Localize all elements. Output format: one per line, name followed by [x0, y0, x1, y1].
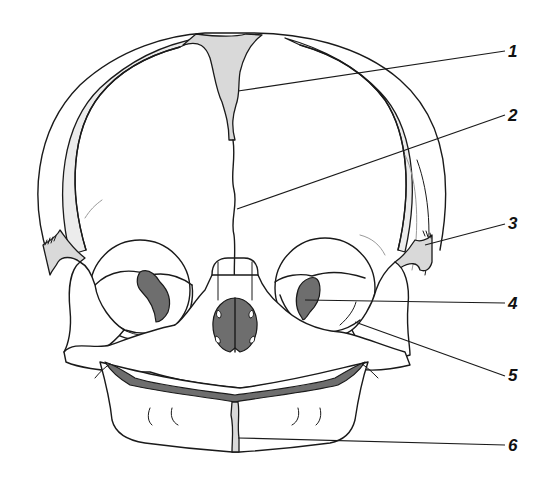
- anterior-fontanelle: [183, 34, 262, 140]
- label-2: 2: [508, 107, 517, 124]
- label-5: 5: [508, 367, 517, 384]
- skull-diagram: [0, 0, 550, 490]
- label-6: 6: [508, 437, 517, 454]
- label-3: 3: [508, 215, 517, 232]
- label-4: 4: [508, 295, 517, 312]
- mandibular-symphysis: [231, 402, 239, 452]
- label-1: 1: [508, 43, 517, 60]
